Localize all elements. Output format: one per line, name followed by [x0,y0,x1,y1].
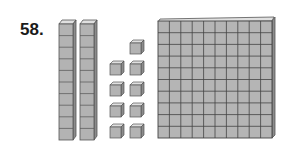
unit-cube-1 [130,40,144,54]
unit-cube-4 [110,82,124,96]
unit-cube-5 [130,82,144,96]
base-ten-blocks [0,0,293,158]
unit-cube-8 [110,124,124,138]
unit-cube-3 [130,61,144,75]
unit-cube-2 [110,61,124,75]
unit-cube-9 [130,124,144,138]
tens-rod-1 [59,20,76,140]
tens-rod-2 [80,20,97,140]
unit-cubes [110,40,144,138]
unit-cube-7 [130,103,144,117]
hundreds-flat [158,17,275,138]
unit-cube-6 [110,103,124,117]
